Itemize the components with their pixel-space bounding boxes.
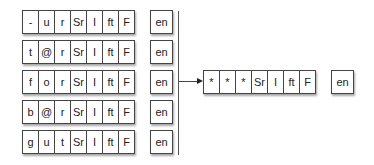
- arrow-shaft: [179, 81, 199, 82]
- cell: *: [235, 70, 252, 94]
- cell: F: [299, 70, 316, 94]
- cell: r: [54, 10, 71, 34]
- cell: r: [54, 70, 71, 94]
- lang-tag: en: [150, 40, 173, 64]
- input-row-0: - u r Sr I ft F: [22, 10, 135, 34]
- cell: r: [54, 40, 71, 64]
- output-row: * * * Sr I ft F: [203, 70, 316, 94]
- cell: F: [118, 70, 135, 94]
- cell: I: [267, 70, 284, 94]
- cell: ft: [283, 70, 300, 94]
- cell: Sr: [70, 70, 87, 94]
- input-row-4: g u t Sr I ft F: [22, 130, 135, 154]
- cell: Sr: [70, 100, 87, 124]
- lang-tag: en: [150, 130, 173, 154]
- cell: I: [86, 70, 103, 94]
- cell: F: [118, 40, 135, 64]
- cell: u: [38, 10, 55, 34]
- cell: Sr: [70, 10, 87, 34]
- cell: ft: [102, 130, 119, 154]
- cell: Sr: [70, 130, 87, 154]
- cell: F: [118, 100, 135, 124]
- bracket-line: [178, 11, 179, 155]
- cell: I: [86, 130, 103, 154]
- cell: t: [54, 130, 71, 154]
- input-row-1: t @ r Sr I ft F: [22, 40, 135, 64]
- cell: @: [38, 40, 55, 64]
- cell: F: [118, 10, 135, 34]
- cell: Sr: [251, 70, 268, 94]
- cell: I: [86, 10, 103, 34]
- cell: t: [22, 40, 39, 64]
- input-row-3: b @ r Sr I ft F: [22, 100, 135, 124]
- cell: g: [22, 130, 39, 154]
- input-row-2: f o r Sr I ft F: [22, 70, 135, 94]
- cell: I: [86, 100, 103, 124]
- cell: Sr: [70, 40, 87, 64]
- cell: -: [22, 10, 39, 34]
- lang-tag: en: [331, 70, 354, 94]
- cell: *: [203, 70, 220, 94]
- cell: u: [38, 130, 55, 154]
- cell: b: [22, 100, 39, 124]
- cell: F: [118, 130, 135, 154]
- cell: o: [38, 70, 55, 94]
- cell: ft: [102, 70, 119, 94]
- lang-tag: en: [150, 100, 173, 124]
- cell: I: [86, 40, 103, 64]
- cell: *: [219, 70, 236, 94]
- cell: ft: [102, 100, 119, 124]
- cell: ft: [102, 40, 119, 64]
- lang-tag: en: [150, 70, 173, 94]
- cell: f: [22, 70, 39, 94]
- cell: ft: [102, 10, 119, 34]
- cell: r: [54, 100, 71, 124]
- cell: @: [38, 100, 55, 124]
- lang-tag: en: [150, 10, 173, 34]
